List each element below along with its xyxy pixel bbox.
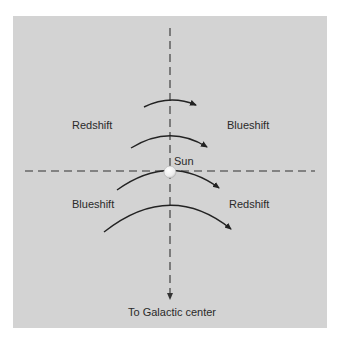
- label-redshift-upper-left: Redshift: [72, 120, 112, 131]
- label-galactic-center: To Galactic center: [128, 307, 216, 318]
- sun-icon: [164, 166, 176, 178]
- label-blueshift-upper-right: Blueshift: [227, 120, 269, 131]
- label-redshift-lower-right: Redshift: [229, 199, 269, 210]
- label-blueshift-lower-left: Blueshift: [72, 199, 114, 210]
- orbit-arrow-2: [131, 136, 207, 148]
- orbit-arrow-4: [104, 205, 231, 232]
- orbit-arrow-1: [144, 100, 196, 107]
- galactic-rotation-diagram: [0, 0, 339, 341]
- label-sun: Sun: [174, 156, 194, 167]
